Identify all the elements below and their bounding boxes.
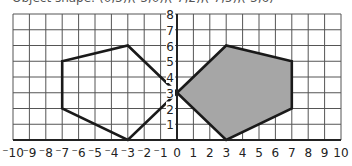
x-tick-label: ⁻2 [137,146,151,160]
coordinate-grid: ⁻10⁻9⁻8⁻7⁻6⁻5⁻4⁻3⁻2⁻10123456789101234567… [0,0,352,166]
image-pentagon [177,46,292,141]
x-tick-label: ⁻8 [39,146,53,160]
x-tick-label: ⁻3 [121,146,135,160]
x-tick-label: ⁻9 [22,146,36,160]
x-tick-label: ⁻6 [72,146,86,160]
x-tick-label: 8 [304,146,312,160]
x-tick-label: 3 [222,146,230,160]
y-tick-label: 5 [166,55,174,69]
y-tick-label: 3 [166,87,174,101]
x-tick-label: ⁻5 [88,146,102,160]
y-tick-label: 4 [166,71,174,85]
y-tick-label: 7 [166,24,174,38]
x-tick-label: 4 [239,146,247,160]
x-tick-label: 7 [288,146,296,160]
x-tick-label: 2 [206,146,214,160]
x-tick-label: ⁻4 [104,146,118,160]
y-tick-label: 6 [166,40,174,54]
y-tick-label: 8 [166,8,174,22]
x-tick-label: 1 [190,146,198,160]
x-tick-label: 9 [321,146,329,160]
x-tick-label: ⁻7 [55,146,69,160]
x-tick-label: ⁻1 [154,146,168,160]
x-tick-label: 10 [333,146,348,160]
x-tick-label: 6 [272,146,280,160]
y-tick-label: 1 [166,118,174,132]
x-tick-label: 0 [173,146,181,160]
x-tick-label: 5 [255,146,263,160]
y-tick-label: 2 [166,103,174,117]
x-tick-label: ⁻10 [2,146,24,160]
